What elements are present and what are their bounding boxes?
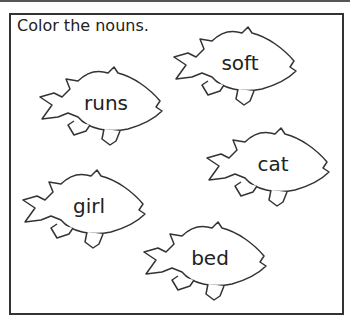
fish-word: bed: [180, 244, 240, 272]
fish-cat[interactable]: cat: [205, 128, 330, 206]
fish-soft[interactable]: soft: [172, 27, 297, 105]
fish-runs[interactable]: runs: [38, 67, 163, 145]
fish-word: girl: [59, 192, 119, 220]
fish-bed[interactable]: bed: [142, 222, 267, 300]
fish-girl[interactable]: girl: [21, 170, 146, 248]
fish-word: runs: [76, 89, 136, 117]
fish-word: soft: [210, 49, 270, 77]
fish-word: cat: [243, 150, 303, 178]
top-rule: [0, 0, 350, 2]
instruction-text: Color the nouns.: [17, 16, 149, 35]
